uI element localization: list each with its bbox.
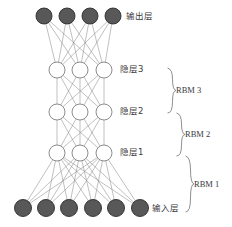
- node-hidden3-3: [96, 62, 112, 78]
- connection-edge: [104, 153, 140, 208]
- connection-edge: [23, 153, 57, 208]
- dbn-diagram: 输出层 隐层3 隐层2 隐层1 输入层 RBM 3 RBM 2 RBM 1: [0, 0, 232, 227]
- node-output-1: [36, 8, 52, 24]
- node-input-3: [61, 200, 78, 217]
- rbm-label-1: RBM 1: [194, 180, 219, 189]
- layer-label-hidden3: 隐层3: [120, 65, 143, 74]
- node-hidden1-1: [49, 145, 65, 161]
- node-input-2: [38, 200, 55, 217]
- connection-edge: [44, 16, 104, 70]
- node-output-4: [105, 8, 121, 24]
- network-graphic: [0, 0, 232, 227]
- brace-rbm1: [186, 156, 195, 212]
- layer-label-output: 输出层: [126, 12, 153, 21]
- node-input-4: [85, 200, 102, 217]
- node-hidden1-3: [96, 145, 112, 161]
- layer-label-hidden2: 隐层2: [120, 107, 143, 116]
- connection-edge: [80, 153, 116, 208]
- layer-label-input: 输入层: [152, 204, 179, 213]
- node-hidden1-2: [72, 145, 88, 161]
- connection-edge: [67, 16, 104, 70]
- connection-edge: [80, 153, 140, 208]
- node-input-6: [132, 200, 149, 217]
- node-hidden2-2: [72, 104, 88, 120]
- node-hidden3-2: [72, 62, 88, 78]
- node-hidden2-3: [96, 104, 112, 120]
- node-input-1: [15, 200, 32, 217]
- brace-rbm3: [168, 68, 177, 113]
- node-input-5: [108, 200, 125, 217]
- node-output-2: [59, 8, 75, 24]
- node-output-3: [82, 8, 98, 24]
- layer-label-hidden1: 隐层1: [120, 148, 143, 157]
- brace-rbm2: [177, 113, 186, 156]
- rbm-label-3: RBM 3: [176, 86, 201, 95]
- rbm-label-2: RBM 2: [185, 130, 210, 139]
- node-hidden3-1: [49, 62, 65, 78]
- node-hidden2-1: [49, 104, 65, 120]
